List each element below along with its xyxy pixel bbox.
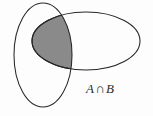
intersection-operator-icon: ∩ (94, 81, 106, 96)
intersection-label: A∩B (86, 82, 114, 95)
intersection-label-set-b: B (106, 81, 114, 96)
venn-diagram-figure: A∩B (0, 0, 153, 116)
venn-diagram-canvas (0, 0, 153, 116)
intersection-label-set-a: A (86, 81, 94, 96)
